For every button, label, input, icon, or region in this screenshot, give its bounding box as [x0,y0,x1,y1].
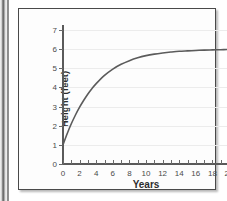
page-spine-edge [7,0,9,201]
y-tick-label: 2 [53,121,57,130]
x-tick-label: 18 [208,169,217,178]
x-tick-label: 2 [77,169,81,178]
x-tick-label: 0 [61,169,65,178]
y-tick-label: 4 [53,83,57,92]
y-tick-label: 7 [53,26,57,35]
x-tick-label: 4 [94,169,98,178]
x-tick-label: 10 [142,169,151,178]
x-tick-label: 6 [111,169,115,178]
x-tick-label: 20 [225,169,227,178]
figure-frame: Height (feet) Years 01234567 02468101214… [18,8,216,190]
growth-curve [63,30,227,164]
x-tick-label: 14 [175,169,184,178]
figure-background: Height (feet) Years 01234567 02468101214… [19,9,215,189]
x-axis-label: Years [63,179,227,190]
plot-area: 01234567 02468101214161820 [63,30,227,164]
y-tick-label: 3 [53,102,57,111]
y-tick-label: 5 [53,64,57,73]
y-tick-label: 6 [53,45,57,54]
y-tick-label: 1 [53,140,57,149]
x-tick-label: 12 [158,169,167,178]
x-tick-label: 16 [191,169,200,178]
y-tick-label: 0 [53,160,57,169]
x-tick-label: 8 [127,169,131,178]
scanned-page: Height (feet) Years 01234567 02468101214… [0,0,227,201]
y-tick-mark [59,164,63,165]
